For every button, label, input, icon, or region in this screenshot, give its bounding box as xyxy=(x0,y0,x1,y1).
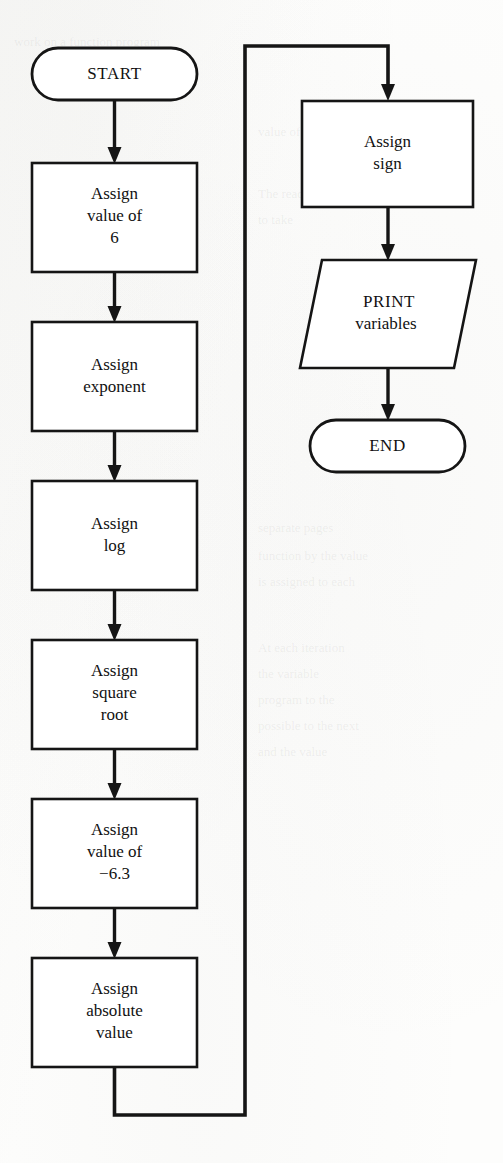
connector-exponent-to-log xyxy=(108,431,122,482)
node-end-label: END xyxy=(369,436,406,455)
arrow-head-icon xyxy=(108,147,122,164)
node-assign-square-root-line3: root xyxy=(101,705,129,724)
node-start[interactable]: START xyxy=(32,48,197,100)
node-print-variables-line2: variables xyxy=(355,314,416,333)
node-assign-absolute-value-line1: Assign xyxy=(91,979,139,998)
node-assign-value-neg63-line1: Assign xyxy=(91,820,139,839)
node-assign-exponent-line2: exponent xyxy=(83,377,146,396)
connector-value63-to-absolute xyxy=(108,908,122,959)
node-assign-sign[interactable]: Assign sign xyxy=(302,101,473,207)
node-assign-value-neg63-line3: −6.3 xyxy=(99,864,130,883)
node-assign-absolute-value[interactable]: Assign absolute value xyxy=(32,958,197,1067)
arrow-head-icon xyxy=(381,244,395,261)
flowchart-figure: work on a function programvalue of the v… xyxy=(0,0,503,1163)
arrow-head-icon xyxy=(381,404,395,421)
connector-squareroot-to-value63 xyxy=(108,749,122,800)
node-assign-log[interactable]: Assign log xyxy=(32,481,197,590)
node-assign-absolute-value-line2: absolute xyxy=(86,1001,143,1020)
node-assign-value-6-line3: 6 xyxy=(110,228,119,247)
node-layer: START Assign value of 6 Assign exponent … xyxy=(32,48,476,1067)
node-assign-absolute-value-line3: value xyxy=(96,1023,133,1042)
flowchart-canvas: START Assign value of 6 Assign exponent … xyxy=(0,0,503,1163)
node-print-variables-line1: PRINT xyxy=(363,292,415,311)
node-print-variables[interactable]: PRINT variables xyxy=(300,260,476,368)
node-assign-log-line1: Assign xyxy=(91,514,139,533)
node-assign-square-root-line1: Assign xyxy=(91,661,139,680)
node-assign-value-6-line1: Assign xyxy=(91,184,139,203)
node-assign-square-root[interactable]: Assign square root xyxy=(32,640,197,749)
node-assign-exponent-line1: Assign xyxy=(91,355,139,374)
connector-log-to-squareroot xyxy=(108,590,122,641)
arrow-head-icon xyxy=(108,306,122,323)
node-assign-sign-line1: Assign xyxy=(364,132,412,151)
node-assign-value-6-line2: value of xyxy=(87,206,143,225)
arrow-head-icon xyxy=(381,84,395,101)
node-assign-value-6[interactable]: Assign value of 6 xyxy=(32,163,197,272)
arrow-head-icon xyxy=(108,465,122,482)
node-assign-value-neg63-line2: value of xyxy=(87,842,143,861)
arrow-head-icon xyxy=(108,942,122,959)
node-start-label: START xyxy=(87,64,141,83)
connector-start-to-value6 xyxy=(108,100,122,164)
node-assign-square-root-line2: square xyxy=(92,683,136,702)
connector-print-to-end xyxy=(381,368,395,421)
connector-sign-to-print xyxy=(381,207,395,261)
node-assign-value-neg63[interactable]: Assign value of −6.3 xyxy=(32,799,197,908)
node-assign-log-line2: log xyxy=(104,536,126,555)
arrow-head-icon xyxy=(108,624,122,641)
node-assign-sign-line2: sign xyxy=(373,154,402,173)
node-end[interactable]: END xyxy=(310,420,465,472)
arrow-head-icon xyxy=(108,783,122,800)
node-assign-exponent[interactable]: Assign exponent xyxy=(32,322,197,431)
connector-value6-to-exponent xyxy=(108,272,122,323)
